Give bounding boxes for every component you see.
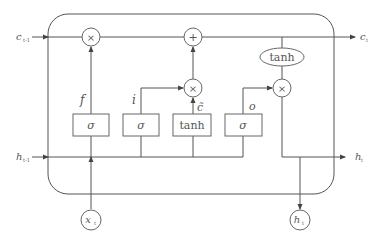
add-node: + — [184, 28, 202, 46]
svg-text:+: + — [188, 31, 197, 44]
svg-text:h: h — [16, 151, 22, 162]
forget-gate-box: σ — [73, 114, 109, 136]
tanh-cell-node: tanh — [260, 48, 304, 66]
h-output-node: h t — [290, 210, 310, 230]
h-prev-label: h t-1 — [16, 151, 30, 163]
input-gate-box: σ — [123, 114, 159, 136]
svg-text:tanh: tanh — [179, 119, 204, 132]
svg-text:tanh: tanh — [269, 51, 294, 64]
svg-text:t-1: t-1 — [23, 37, 30, 43]
svg-text:×: × — [87, 32, 95, 43]
svg-text:h: h — [294, 214, 300, 225]
output-label: o — [249, 100, 256, 113]
input-label: i — [132, 93, 136, 107]
svg-text:×: × — [189, 83, 197, 94]
svg-text:t-1: t-1 — [23, 157, 30, 163]
svg-text:σ: σ — [87, 119, 95, 132]
svg-text:σ: σ — [137, 119, 145, 132]
input-gate-line — [141, 88, 183, 114]
forget-multiply-node: × — [82, 28, 100, 46]
output-multiply-node: × — [273, 79, 291, 97]
c-t-label: c t — [360, 31, 368, 43]
svg-text:×: × — [278, 83, 286, 94]
candidate-label: c̃ — [197, 101, 204, 114]
candidate-box: tanh — [173, 114, 211, 136]
lstm-diagram: σ σ tanh σ f i c̃ o × + × × tanh x t — [0, 0, 379, 246]
svg-text:x: x — [85, 214, 91, 225]
svg-text:t: t — [302, 220, 304, 226]
svg-text:t: t — [366, 37, 368, 43]
output-gate-box: σ — [225, 114, 262, 136]
h-t-label: h t — [355, 151, 363, 163]
svg-text:t: t — [94, 220, 96, 226]
x-input-node: x t — [81, 210, 101, 230]
svg-text:c: c — [16, 31, 22, 42]
svg-text:σ: σ — [239, 119, 247, 132]
hidden-output-line — [282, 97, 345, 157]
input-multiply-node: × — [184, 79, 202, 97]
svg-text:t: t — [361, 157, 363, 163]
forget-label: f — [79, 93, 87, 107]
output-gate-line — [243, 88, 272, 114]
c-prev-label: c t-1 — [16, 31, 30, 43]
